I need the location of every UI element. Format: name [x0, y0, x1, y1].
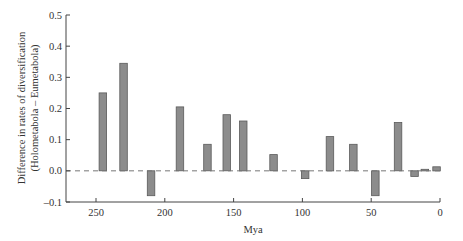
- y-tick-label: 0.1: [49, 134, 62, 145]
- y-tick-label: 0.5: [49, 10, 62, 21]
- bar-13: [411, 171, 419, 177]
- bar-0: [99, 93, 107, 171]
- y-tick-label: 0.2: [49, 103, 62, 114]
- bar-1: [120, 63, 128, 171]
- diversification-chart: –0.10.00.10.20.30.40.5 250200150100500 D…: [0, 0, 463, 241]
- bar-15: [433, 167, 441, 171]
- x-tick-label: 50: [366, 207, 377, 218]
- y-axis-title-line1: Difference in rates of diversification: [16, 31, 27, 184]
- bar-9: [326, 137, 334, 171]
- x-tick-label: 100: [295, 207, 311, 218]
- y-tick-label: 0.3: [49, 72, 62, 83]
- bar-6: [240, 121, 248, 171]
- bar-series: [99, 63, 440, 195]
- bar-10: [350, 144, 358, 171]
- bar-7: [270, 155, 278, 171]
- bar-4: [204, 144, 212, 171]
- y-tick-label: 0.4: [49, 41, 63, 52]
- x-axis-title: Mya: [243, 224, 263, 235]
- bar-8: [301, 171, 309, 179]
- y-tick-label: –0.1: [43, 197, 62, 208]
- y-tick-label: 0.0: [49, 165, 62, 176]
- bar-11: [372, 171, 380, 196]
- x-axis: 250200150100500: [66, 198, 443, 218]
- x-tick-label: 150: [226, 207, 242, 218]
- y-axis: –0.10.00.10.20.30.40.5: [43, 10, 70, 208]
- y-axis-title-line2: (Holometabola – Eumetabola): [29, 44, 41, 172]
- x-tick-label: 200: [157, 207, 173, 218]
- x-tick-label: 0: [437, 207, 442, 218]
- bar-3: [176, 107, 184, 171]
- x-tick-label: 250: [88, 207, 104, 218]
- bar-12: [394, 123, 402, 171]
- bar-2: [147, 171, 155, 196]
- bar-5: [223, 115, 231, 171]
